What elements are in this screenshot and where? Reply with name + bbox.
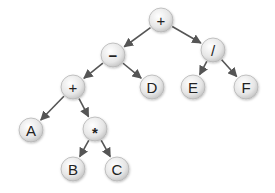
edge-arrow — [123, 63, 141, 78]
tree-node: + — [61, 75, 85, 99]
edge-arrow — [124, 28, 150, 47]
expression-tree-diagram: +−/+DEFA*BC — [0, 0, 275, 193]
tree-node: E — [181, 75, 205, 99]
tree-node: C — [105, 157, 129, 181]
node-label: − — [109, 47, 118, 64]
tree-node: − — [101, 43, 125, 67]
tree-node: F — [234, 75, 258, 99]
node-label: E — [188, 79, 198, 96]
node-label: F — [241, 79, 250, 96]
edge-arrow — [84, 63, 103, 78]
edge-arrow — [101, 140, 110, 156]
node-label: C — [112, 161, 123, 178]
tree-node: + — [149, 8, 173, 32]
edge-arrow — [80, 140, 89, 156]
node-label: + — [69, 79, 78, 96]
node-label: D — [147, 79, 158, 96]
edge-arrow — [41, 96, 64, 120]
edge-arrow — [172, 26, 201, 43]
edge-arrow — [79, 99, 88, 117]
tree-node: D — [140, 75, 164, 99]
node-label: B — [68, 161, 78, 178]
tree-node: / — [201, 38, 225, 62]
node-label: + — [157, 12, 166, 29]
node-label: A — [26, 122, 36, 139]
nodes-layer: +−/+DEFA*BC — [19, 8, 258, 181]
edge-arrow — [200, 61, 207, 74]
edge-arrow — [222, 60, 237, 77]
tree-node: B — [61, 157, 85, 181]
tree-node: A — [19, 118, 43, 142]
tree-node: * — [83, 117, 107, 141]
node-label: * — [92, 124, 98, 141]
